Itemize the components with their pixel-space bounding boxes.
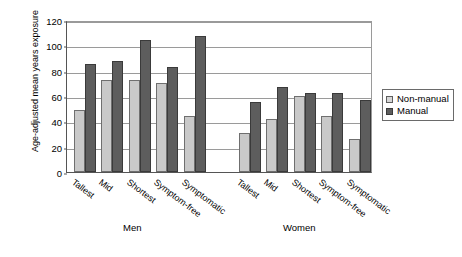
bar-manual xyxy=(305,93,316,172)
legend-item-manual: Manual xyxy=(386,105,449,117)
group-label-men: Men xyxy=(123,222,141,233)
x-category-label: Tallest xyxy=(70,177,96,200)
bar-manual xyxy=(250,102,261,172)
plot-area: 020406080100120 xyxy=(66,21,372,173)
x-category-label: Shortest xyxy=(125,177,158,205)
bar-non-manual xyxy=(321,116,332,172)
bar-non-manual xyxy=(266,119,277,172)
bar-non-manual xyxy=(184,116,195,172)
bar-manual xyxy=(360,100,371,172)
bar-non-manual xyxy=(239,133,250,172)
y-axis-title: Age-adjusted mean years exposure xyxy=(30,0,40,176)
x-category-label: Tallest xyxy=(235,177,261,200)
bar-manual xyxy=(85,64,96,172)
bar-manual xyxy=(277,87,288,172)
y-tick-mark xyxy=(64,174,67,175)
y-tick-label: 40 xyxy=(51,118,62,128)
y-tick-label: 80 xyxy=(51,68,62,78)
x-category-label: Mid xyxy=(262,177,280,194)
y-tick-label: 100 xyxy=(46,42,62,52)
y-tick-label: 20 xyxy=(51,144,62,154)
bar-non-manual xyxy=(101,80,112,172)
chart-legend: Non-manual Manual xyxy=(382,89,454,121)
bar-non-manual xyxy=(156,83,167,172)
bar-non-manual xyxy=(74,110,85,172)
bar-series-container xyxy=(67,22,371,172)
legend-swatch-manual xyxy=(386,108,393,115)
bar-chart-figure: Age-adjusted mean years exposure 0204060… xyxy=(0,0,462,257)
legend-swatch-non-manual xyxy=(386,96,393,103)
x-category-label: Shortest xyxy=(290,177,323,205)
y-tick-label: 60 xyxy=(51,93,62,103)
bar-manual xyxy=(112,61,123,172)
legend-label-manual: Manual xyxy=(397,106,428,116)
y-tick-label: 0 xyxy=(57,169,62,179)
bar-manual xyxy=(167,67,178,172)
bar-non-manual xyxy=(294,96,305,172)
bar-manual xyxy=(140,40,151,172)
y-tick-label: 120 xyxy=(46,17,62,27)
legend-label-non-manual: Non-manual xyxy=(397,94,449,104)
bar-manual xyxy=(195,36,206,172)
bar-non-manual xyxy=(129,80,140,172)
legend-item-non-manual: Non-manual xyxy=(386,93,449,105)
group-label-women: Women xyxy=(283,222,316,233)
bar-non-manual xyxy=(349,139,360,172)
x-category-label: Mid xyxy=(97,177,115,194)
bar-manual xyxy=(332,93,343,172)
